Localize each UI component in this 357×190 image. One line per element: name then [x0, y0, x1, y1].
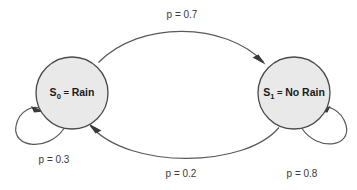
markov-chain-diagram: S0 = Rain S1 = No Rain p = 0.7 p = 0.2 p…	[0, 0, 357, 190]
transition-s0-to-s1[interactable]	[99, 31, 266, 64]
bottom-arc-path	[91, 126, 280, 158]
state-value-s0: Rain	[72, 86, 95, 98]
state-value-s1: No Rain	[285, 86, 325, 98]
state-node-s1[interactable]: S1 = No Rain	[258, 57, 330, 129]
arrowhead-into-s0-bottom	[89, 124, 102, 134]
probability-label-s0-to-s0: p = 0.3	[39, 154, 70, 165]
state-symbol-s1: S	[263, 86, 270, 98]
state-diagram-canvas: S0 = Rain S1 = No Rain p = 0.7 p = 0.2 p…	[0, 0, 357, 190]
state-node-s0[interactable]: S0 = Rain	[36, 57, 108, 129]
top-arc-path	[99, 31, 264, 62]
probability-label-s1-to-s1: p = 0.8	[287, 168, 318, 179]
arrowhead-into-s1-top	[253, 55, 266, 65]
transition-s1-to-s0[interactable]	[89, 124, 280, 159]
probability-label-s1-to-s0: p = 0.2	[166, 168, 197, 179]
state-symbol-s0: S	[50, 86, 57, 98]
probability-label-s0-to-s1: p = 0.7	[167, 9, 198, 20]
state-equals-s0: =	[61, 87, 72, 98]
state-equals-s1: =	[274, 87, 285, 98]
